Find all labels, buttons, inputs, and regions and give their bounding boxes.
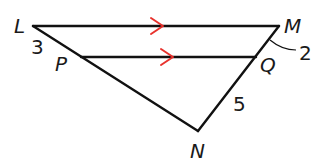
vertex-label-q: Q bbox=[260, 53, 276, 77]
vertex-label-p: P bbox=[55, 52, 68, 76]
vertex-label-m: M bbox=[284, 14, 301, 38]
vertex-label-n: N bbox=[190, 139, 205, 160]
measure-mq: 2 bbox=[299, 41, 312, 65]
measure-leader-mq bbox=[270, 40, 296, 50]
measure-lp: 3 bbox=[31, 35, 44, 59]
segment-ln bbox=[33, 26, 198, 131]
measure-qn: 5 bbox=[233, 92, 246, 116]
vertex-label-l: L bbox=[14, 14, 25, 38]
triangle-diagram: L M P Q N 3 2 5 bbox=[0, 0, 325, 160]
